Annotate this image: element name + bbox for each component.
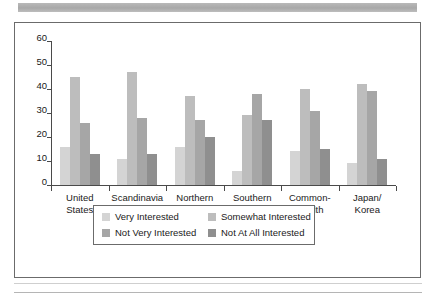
bar xyxy=(147,154,157,185)
bar xyxy=(242,115,252,185)
legend-swatch-icon xyxy=(102,229,110,237)
x-group-separator xyxy=(51,186,52,191)
legend-label: Not Very Interested xyxy=(115,228,196,238)
bar xyxy=(347,163,357,185)
y-tick-label: 30 xyxy=(36,105,47,115)
bar xyxy=(137,118,147,185)
legend-swatch-icon xyxy=(102,213,110,221)
bar xyxy=(117,159,127,185)
bar xyxy=(357,84,367,185)
y-tick-label: 50 xyxy=(36,57,47,67)
bar xyxy=(90,154,100,185)
y-axis-tick-labels: 0102030405060 xyxy=(23,37,47,185)
legend-item[interactable]: Very Interested xyxy=(102,212,208,222)
legend-item[interactable]: Not At All Interested xyxy=(208,228,314,238)
legend-label: Very Interested xyxy=(115,212,179,222)
y-tick-mark xyxy=(47,41,52,42)
bar xyxy=(290,151,300,185)
x-group-separator xyxy=(396,186,397,191)
y-tick-mark xyxy=(47,137,52,138)
bar xyxy=(60,147,70,185)
legend-swatch-icon xyxy=(208,229,216,237)
y-tick-label: 20 xyxy=(36,129,47,139)
x-group-separator xyxy=(109,186,110,191)
bar xyxy=(367,91,377,185)
x-category-label: Scandinavia xyxy=(109,192,167,204)
bar xyxy=(300,89,310,185)
bar xyxy=(175,147,185,185)
bar xyxy=(80,123,90,185)
bar xyxy=(232,171,242,185)
bars-layer xyxy=(51,41,396,185)
legend-swatch-icon xyxy=(208,213,216,221)
y-tick-label: 60 xyxy=(36,33,47,43)
bar xyxy=(320,149,330,185)
x-group-separator xyxy=(339,186,340,191)
bar xyxy=(377,159,387,185)
top-banner-decoration xyxy=(18,3,417,12)
y-tick-mark xyxy=(47,65,52,66)
bottom-rule-lower xyxy=(14,292,422,293)
legend-label: Somewhat Interested xyxy=(221,212,311,222)
bar xyxy=(262,120,272,185)
bar xyxy=(310,111,320,185)
x-group-separator xyxy=(166,186,167,191)
legend-item[interactable]: Somewhat Interested xyxy=(208,212,314,222)
legend-item[interactable]: Not Very Interested xyxy=(102,228,208,238)
y-tick-label: 40 xyxy=(36,81,47,91)
y-tick-label: 10 xyxy=(36,153,47,163)
bar xyxy=(185,96,195,185)
x-category-label: Japan/ Korea xyxy=(339,192,397,215)
y-tick-mark xyxy=(47,89,52,90)
bar xyxy=(252,94,262,185)
y-tick-mark xyxy=(47,113,52,114)
x-group-separator xyxy=(224,186,225,191)
chart-legend: Very InterestedSomewhat InterestedNot Ve… xyxy=(93,205,315,245)
legend-label: Not At All Interested xyxy=(221,228,304,238)
bar xyxy=(195,120,205,185)
x-group-separator xyxy=(281,186,282,191)
bar xyxy=(70,77,80,185)
bottom-rule-upper xyxy=(14,283,422,284)
y-tick-mark xyxy=(47,161,52,162)
bar xyxy=(127,72,137,185)
bar xyxy=(205,137,215,185)
